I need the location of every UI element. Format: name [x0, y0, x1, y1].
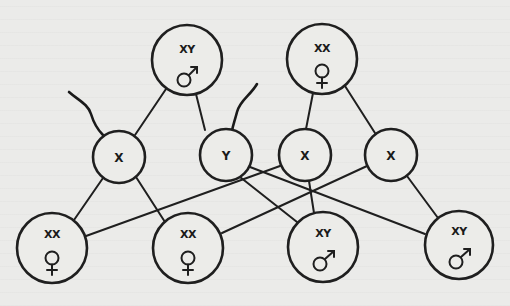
gamete-egg-x1: X [279, 129, 331, 181]
parent-female: XX [287, 24, 357, 94]
parent-male: XY [152, 25, 222, 95]
offspring-male-2: XY [425, 211, 493, 279]
edge-male-to-gamete-y [196, 94, 205, 130]
edge-female-to-gamete-x1 [306, 93, 313, 129]
chromosome-label: X [300, 149, 310, 163]
genotype-label: XY [451, 225, 468, 238]
edge-gy-to-o3 [240, 177, 297, 222]
sperm-tail-x [69, 92, 103, 135]
offspring-male-1: XY [288, 212, 358, 282]
genotype-label: XY [179, 43, 196, 56]
edge-gx1-to-o1 [74, 178, 103, 220]
gamete-egg-x2: X [365, 129, 417, 181]
diagram-canvas: XY XX X Y X [0, 0, 510, 306]
gamete-sperm-x: X [93, 131, 145, 183]
genotype-label: XY [315, 227, 332, 240]
inheritance-diagram: XY XX X Y X [0, 0, 510, 306]
edge-gx3-to-o3 [309, 181, 314, 213]
genotype-label: XX [314, 42, 331, 55]
gamete-sperm-y: Y [200, 129, 252, 181]
edge-female-to-gamete-x2 [345, 86, 375, 133]
edge-gx4-to-o4 [407, 176, 438, 218]
offspring-female-2: XX [153, 213, 223, 283]
offspring-female-1: XX [17, 213, 87, 283]
edge-gx1-to-o2 [136, 177, 165, 222]
chromosome-label: Y [221, 149, 231, 163]
chromosome-label: X [114, 151, 124, 165]
parent-gamete-edges [135, 86, 375, 135]
genotype-label: XX [44, 228, 61, 241]
edge-male-to-gamete-x [135, 89, 166, 135]
chromosome-label: X [386, 149, 396, 163]
genotype-label: XX [180, 228, 197, 241]
